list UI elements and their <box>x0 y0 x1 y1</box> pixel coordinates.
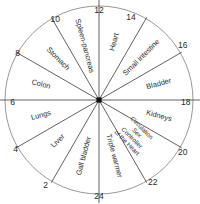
sector-label-group: Stomach <box>45 45 72 72</box>
hour-tick-label-6: 6 <box>10 97 15 107</box>
organ-clock-diagram: 12141618202224246810 HeartSmall intestin… <box>0 0 200 204</box>
sector-label-group: Spleen-pancreas <box>73 18 96 75</box>
sector-label-line: Kidneys <box>145 108 173 124</box>
hour-tick-label-12: 12 <box>94 5 104 15</box>
sector-label-group: Liver <box>49 131 67 149</box>
sector-label-line: Small intestine <box>121 37 161 77</box>
sector-label-spleen-pancreas: Spleen-pancreas <box>73 18 96 75</box>
sector-label-line: Liver <box>49 131 67 149</box>
hour-tick-label-24: 24 <box>94 191 104 201</box>
sector-label-stomach: Stomach <box>45 45 72 72</box>
hour-tick-label-20: 20 <box>178 147 188 157</box>
sector-label-colon: Colon <box>31 77 52 91</box>
organ-clock-svg: 12141618202224246810 HeartSmall intestin… <box>0 0 200 204</box>
sector-label-line: Bladder <box>145 76 172 91</box>
hour-tick-label-14: 14 <box>126 12 136 22</box>
sector-label-line: Lungs <box>30 108 52 122</box>
sector-label-line: Heart <box>107 32 120 52</box>
sector-label-circulation-sex-controller-of-the-heart: CirculationSexControllerof the Heart <box>114 113 157 156</box>
sector-label-group: CirculationSexControllerof the Heart <box>114 113 157 156</box>
sector-label-line: Colon <box>31 77 52 91</box>
sector-label-heart: Heart <box>107 32 120 52</box>
hour-tick-label-16: 16 <box>178 40 188 50</box>
sector-label-kidneys: Kidneys <box>145 108 173 124</box>
sector-label-group: Kidneys <box>145 108 173 124</box>
sector-label-liver: Liver <box>49 131 67 149</box>
hour-tick-label-22: 22 <box>148 177 158 187</box>
hour-tick-label-18: 18 <box>181 97 191 107</box>
sector-label-line: Spleen-pancreas <box>73 18 96 75</box>
sector-label-small-intestine: Small intestine <box>121 37 161 77</box>
sector-label-group: Bladder <box>145 76 172 91</box>
hour-tick-label-10: 10 <box>51 14 61 24</box>
hour-tick-label-4: 4 <box>13 144 18 154</box>
sector-label-bladder: Bladder <box>145 76 172 91</box>
hour-tick-label-2: 2 <box>43 180 48 190</box>
sector-label-group: Heart <box>107 32 120 52</box>
hour-tick-label-8: 8 <box>15 48 20 58</box>
sector-label-line: Gall bladder <box>74 135 93 176</box>
sector-label-group: Lungs <box>30 108 52 122</box>
sector-label-lungs: Lungs <box>30 108 52 122</box>
sector-label-group: Colon <box>31 77 52 91</box>
center-hub-marker <box>96 97 101 102</box>
sector-label-group: Gall bladder <box>74 135 93 176</box>
sector-label-gall-bladder: Gall bladder <box>74 135 93 176</box>
sector-label-group: Small intestine <box>121 37 161 77</box>
sector-label-line: Stomach <box>45 45 72 72</box>
